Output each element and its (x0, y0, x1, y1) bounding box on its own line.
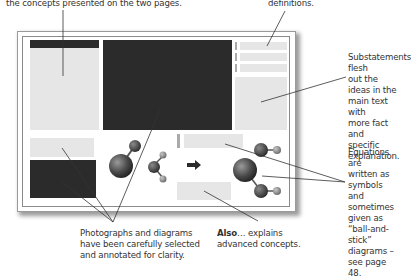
ball-and-stick-molecule-right (233, 143, 281, 198)
leader-lines (62, 10, 346, 222)
ball-and-stick-molecule-left (109, 140, 167, 183)
